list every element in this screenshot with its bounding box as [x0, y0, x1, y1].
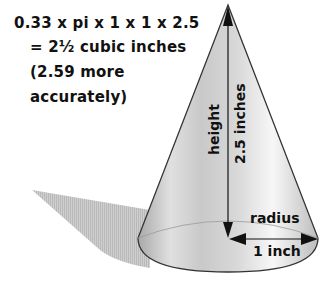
cone-shadow — [32, 190, 150, 268]
radius-label: radius — [250, 210, 299, 226]
height-label: height — [206, 104, 222, 155]
radius-value-label: 1 inch — [253, 243, 301, 259]
height-value-label: 2.5 inches — [232, 83, 248, 164]
formula-line-3: (2.59 more — [30, 60, 125, 85]
formula-line-4: accurately) — [30, 85, 127, 110]
formula-line-2: = 2½ cubic inches — [30, 35, 186, 60]
formula-line-1: 0.33 x pi x 1 x 1 x 2.5 — [14, 11, 199, 36]
cone-volume-diagram: 0.33 x pi x 1 x 1 x 2.5 = 2½ cubic inche… — [0, 0, 329, 289]
